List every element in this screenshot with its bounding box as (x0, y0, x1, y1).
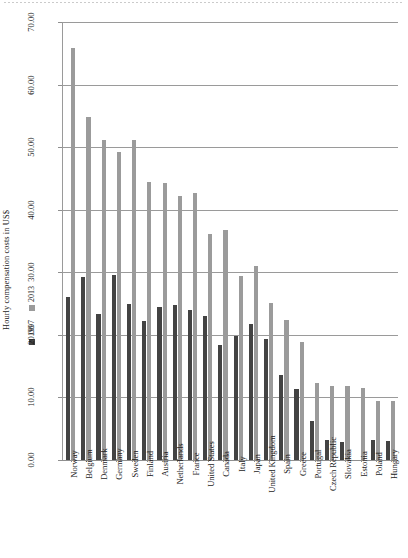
category-label-text: Spain (283, 454, 292, 473)
y-axis-label-20: 20.00 (26, 315, 38, 355)
bar-2013 (163, 183, 167, 460)
category-label: Denmark (94, 462, 109, 556)
y-axis-tick-70 (58, 22, 62, 23)
bar-1997 (157, 307, 161, 460)
bar-group (352, 22, 367, 460)
category-label-text: Czech Republic (329, 437, 338, 491)
y-axis-tick-0 (58, 460, 62, 461)
category-label-text: Slovakia (344, 449, 353, 479)
bar-2013 (178, 196, 182, 460)
category-label: United Kingdom (261, 462, 276, 556)
plot-area (62, 22, 398, 460)
bar-2013 (284, 320, 288, 460)
bar-group (307, 22, 322, 460)
y-axis-label-0: 0.00 (26, 440, 38, 480)
category-label-text: France (192, 452, 201, 475)
category-label: Finland (139, 462, 154, 556)
category-label: Germany (109, 462, 124, 556)
category-label-text: Portugal (314, 450, 323, 479)
bar-2013 (71, 48, 75, 460)
category-label-text: United States (207, 441, 216, 487)
y-axis-tick-50 (58, 147, 62, 148)
bar-group (215, 22, 230, 460)
y-axis-tick-40 (58, 210, 62, 211)
bar-2013 (208, 234, 212, 461)
bar-2013 (361, 388, 365, 460)
bar-group (170, 22, 185, 460)
category-label-text: Japan (253, 454, 262, 473)
bar-1997 (127, 304, 131, 460)
category-label: United States (200, 462, 215, 556)
category-label: Canada (216, 462, 231, 556)
y-axis-tick-20 (58, 335, 62, 336)
y-axis-label-40: 40.00 (26, 190, 38, 230)
bar-1997 (234, 336, 238, 460)
category-label: France (185, 462, 200, 556)
y-axis-label-60: 60.00 (26, 65, 38, 105)
category-label-text: Finland (146, 451, 155, 477)
y-axis-label-10: 10.00 (26, 377, 38, 417)
bar-2013 (254, 266, 258, 460)
category-label-text: Denmark (100, 448, 109, 480)
category-label-text: Sweden (131, 451, 140, 478)
category-label-text: Poland (375, 452, 384, 476)
bar-2013 (132, 140, 136, 460)
bar-1997 (249, 324, 253, 460)
category-label-text: Belgium (85, 449, 94, 478)
category-label: Portugal (307, 462, 322, 556)
bar-1997 (294, 389, 298, 460)
bar-group (200, 22, 215, 460)
bar-group (276, 22, 291, 460)
y-axis-title-text: Hourly compensation costs in US$ (2, 130, 11, 330)
legend-swatch-2013 (29, 305, 35, 311)
bar-2013 (239, 276, 243, 460)
bar-2013 (86, 117, 90, 460)
category-label-text: Austria (161, 451, 170, 476)
category-label-text: Italy (238, 456, 247, 472)
category-label: Hungary (384, 462, 399, 556)
y-axis-title: Hourly compensation costs in US$ (2, 0, 18, 130)
category-label: Austria (155, 462, 170, 556)
y-axis-tick-10 (58, 397, 62, 398)
bar-1997 (142, 321, 146, 460)
category-label: Italy (231, 462, 246, 556)
bar-2013 (193, 193, 197, 460)
category-label: Estonia (353, 462, 368, 556)
category-label-text: Greece (299, 452, 308, 476)
bar-group (139, 22, 154, 460)
y-axis-tick-30 (58, 272, 62, 273)
category-label-text: Estonia (360, 451, 369, 477)
y-axis-label-70: 70.00 (26, 2, 38, 42)
y-axis-label-30: 30.00 (26, 252, 38, 292)
category-label: Czech Republic (323, 462, 338, 556)
category-label-text: Canada (222, 451, 231, 477)
bar-group (383, 22, 398, 460)
bar-2013 (147, 182, 151, 460)
bar-1997 (218, 345, 222, 460)
bar-chart-figure: Hourly compensation costs in US$ 1997 20… (0, 0, 408, 558)
category-label-text: Germany (115, 448, 124, 480)
bar-1997 (112, 275, 116, 460)
bar-group (246, 22, 261, 460)
y-axis-label-50: 50.00 (26, 127, 38, 167)
bar-1997 (279, 375, 283, 460)
bar-2013 (117, 152, 121, 460)
category-label: Netherlands (170, 462, 185, 556)
category-label: Poland (368, 462, 383, 556)
category-label-text: United Kingdom (268, 435, 277, 492)
bar-group (292, 22, 307, 460)
bar-group (78, 22, 93, 460)
bar-group (154, 22, 169, 460)
category-label-text: Hungary (390, 449, 399, 479)
category-label-text: Norway (70, 450, 79, 477)
bar-group (261, 22, 276, 460)
bar-1997 (188, 310, 192, 460)
bar-1997 (96, 314, 100, 460)
category-label: Slovakia (338, 462, 353, 556)
bar-2013 (102, 140, 106, 460)
bar-group (368, 22, 383, 460)
y-axis-tick-60 (58, 85, 62, 86)
category-label: Sweden (124, 462, 139, 556)
bar-2013 (223, 230, 227, 460)
category-label: Japan (246, 462, 261, 556)
